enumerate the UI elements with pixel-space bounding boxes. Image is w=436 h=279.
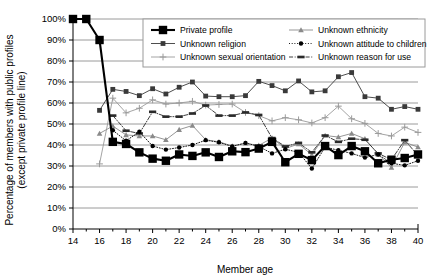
data-point-marker [387, 156, 395, 164]
data-point-marker [137, 130, 141, 134]
data-point-marker [137, 93, 142, 98]
y-tick-label: 50% [47, 118, 67, 129]
x-tick-label: 32 [307, 235, 318, 246]
data-point-marker [336, 74, 341, 79]
data-point-marker [270, 151, 274, 155]
data-point-marker [69, 15, 77, 23]
data-point-marker [323, 88, 328, 93]
data-point-marker [159, 26, 167, 34]
data-point-marker [349, 151, 353, 155]
data-point-marker [202, 104, 209, 107]
y-tick-label: 20% [47, 181, 67, 192]
y-tick-label: 0% [52, 223, 66, 234]
data-point-marker [122, 140, 130, 148]
y-tick-label: 30% [47, 160, 67, 171]
data-point-marker [348, 137, 355, 140]
data-point-marker [255, 144, 263, 152]
data-point-marker [295, 142, 302, 145]
y-tick-label: 90% [47, 34, 67, 45]
x-tick-label: 40 [413, 235, 424, 246]
data-point-marker [376, 96, 381, 101]
data-point-marker [361, 147, 369, 155]
data-point-marker [148, 154, 156, 162]
data-point-marker [401, 139, 408, 142]
data-point-marker [228, 147, 236, 155]
data-point-marker [161, 41, 166, 46]
data-point-marker [270, 83, 275, 88]
data-point-marker [322, 134, 329, 137]
data-point-marker [416, 159, 420, 163]
data-point-marker [389, 107, 394, 112]
data-point-marker [321, 142, 329, 150]
x-tick-label: 24 [200, 235, 211, 246]
data-point-marker [309, 89, 314, 94]
data-point-marker [349, 70, 354, 75]
data-point-marker [229, 114, 236, 117]
y-tick-label: 70% [47, 76, 67, 87]
x-tick-label: 26 [227, 235, 238, 246]
x-tick-label: 16 [94, 235, 105, 246]
data-point-marker [230, 94, 235, 99]
data-point-marker [162, 157, 170, 165]
data-point-marker [189, 112, 196, 115]
data-point-marker [401, 154, 409, 162]
data-point-marker [363, 94, 368, 99]
data-point-marker [110, 87, 115, 92]
legend-item[interactable]: Private profile [151, 25, 233, 35]
y-tick-label: 60% [47, 97, 67, 108]
data-point-marker [201, 148, 209, 156]
data-point-marker [177, 85, 182, 90]
data-point-marker [294, 150, 302, 158]
data-point-marker [135, 148, 143, 156]
data-point-marker [334, 151, 342, 159]
legend-label: Unknown ethnicity [318, 25, 388, 35]
data-point-marker [347, 142, 355, 150]
data-point-marker [402, 104, 407, 109]
data-point-marker [149, 111, 156, 114]
y-tick-label: 40% [47, 139, 67, 150]
data-point-marker [403, 163, 407, 167]
data-point-marker [97, 108, 102, 113]
data-point-marker [163, 92, 168, 97]
data-point-marker [150, 144, 154, 148]
data-point-marker [188, 152, 196, 160]
data-point-marker [176, 115, 183, 118]
x-tick-label: 30 [280, 235, 291, 246]
legend-label: Unknown sexual orientation [180, 52, 286, 62]
data-point-marker [308, 156, 316, 164]
x-tick-label: 20 [147, 235, 158, 246]
data-point-marker [268, 138, 276, 146]
data-point-marker [95, 36, 103, 44]
data-point-marker [376, 152, 380, 156]
data-point-marker [217, 94, 222, 99]
y-axis-title-line1: Percentage of members with public profil… [4, 34, 15, 225]
data-point-marker [283, 88, 288, 93]
data-point-marker [175, 150, 183, 158]
data-point-marker [82, 15, 90, 23]
data-point-marker [215, 114, 222, 117]
data-point-marker [308, 151, 315, 154]
data-point-marker [310, 166, 314, 170]
data-point-marker [335, 141, 342, 144]
data-point-marker [122, 129, 129, 132]
data-point-marker [243, 93, 248, 98]
data-point-marker [215, 153, 223, 161]
data-point-marker [256, 79, 261, 84]
legend-label: Unknown attitude to children [318, 39, 427, 49]
x-tick-label: 34 [333, 235, 344, 246]
chart-container: 0%10%20%30%40%50%60%70%80%90%100% 141618… [0, 0, 436, 279]
x-tick-label: 22 [174, 235, 185, 246]
data-point-marker [363, 155, 367, 159]
data-point-marker [414, 150, 422, 158]
data-point-marker [124, 89, 129, 94]
data-point-marker [162, 115, 169, 118]
data-point-marker [299, 41, 303, 45]
data-point-marker [190, 143, 194, 147]
y-tick-label: 80% [47, 55, 67, 66]
data-point-marker [374, 159, 382, 167]
x-tick-label: 38 [386, 235, 397, 246]
data-point-marker [296, 79, 301, 84]
x-tick-label: 18 [121, 235, 132, 246]
data-point-marker [217, 140, 221, 144]
y-tick-label: 100% [42, 13, 67, 24]
